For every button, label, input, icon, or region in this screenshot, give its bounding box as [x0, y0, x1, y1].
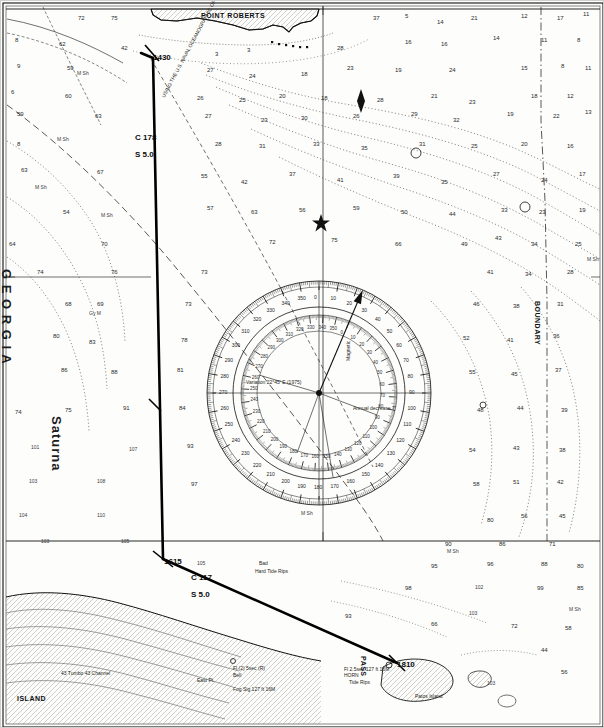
chart-note: HORN [344, 673, 359, 678]
rose-inner-degree-label: 240 [250, 398, 258, 403]
rose-outer-degree-label: 320 [253, 317, 261, 322]
sounding-value: 37 [555, 367, 562, 373]
sounding-value: 43 [513, 445, 520, 451]
rose-inner-degree-label: 260 [252, 376, 260, 381]
rose-outer-degree-label: 250 [225, 422, 233, 427]
sounding-value: 23 [469, 99, 476, 105]
sounding-value: 93 [345, 613, 352, 619]
sounding-value: 99 [537, 585, 544, 591]
sounding-value: 85 [577, 585, 584, 591]
chart-note: Magnetic [346, 341, 351, 361]
feature-label: ISLAND [17, 695, 46, 702]
sounding-value: 68 [65, 301, 72, 307]
rose-inner-degree-label: 0 [340, 331, 343, 336]
sounding-value: 18 [531, 93, 538, 99]
sounding-value: 33 [501, 207, 508, 213]
sounding-value: 24 [249, 73, 256, 79]
sounding-value: 37 [289, 171, 296, 177]
sounding-value: 49 [461, 241, 468, 247]
sounding-value: 37 [373, 15, 380, 21]
sounding-value: 103 [487, 681, 495, 686]
sounding-value: 29 [411, 111, 418, 117]
sounding-value: 95 [431, 563, 438, 569]
sounding-value: 90 [445, 541, 452, 547]
sounding-value: 75 [111, 15, 118, 21]
sounding-value: 17 [579, 171, 586, 177]
sounding-value: 63 [251, 209, 258, 215]
rose-outer-degree-label: 270 [219, 390, 227, 395]
rose-inner-degree-label: 280 [260, 355, 268, 360]
sounding-value: 93 [187, 443, 194, 449]
sounding-value: 97 [191, 481, 198, 487]
sounding-value: 107 [129, 447, 137, 452]
sounding-value: 75 [331, 237, 338, 243]
sounding-value: 48 [477, 407, 484, 413]
sounding-value: 86 [499, 541, 506, 547]
sounding-value: 31 [557, 301, 564, 307]
sounding-value: 39 [393, 173, 400, 179]
sounding-value: 59 [353, 205, 360, 211]
rose-inner-degree-label: 190 [280, 445, 288, 450]
rose-inner-degree-label: 340 [318, 326, 326, 331]
sounding-value: 38 [559, 447, 566, 453]
chart-note: Fog Sig 127 ft 16M [233, 687, 275, 692]
rose-outer-degree-label: 90 [409, 390, 415, 395]
sounding-value: 31 [259, 143, 266, 149]
rose-inner-degree-label: 170 [300, 454, 308, 459]
sounding-value: 83 [89, 339, 96, 345]
rose-outer-degree-label: 210 [267, 472, 275, 477]
sounding-value: 70 [101, 241, 108, 247]
sounding-value: 64 [9, 241, 16, 247]
sounding-value: 59 [67, 65, 74, 71]
sounding-value: 72 [269, 239, 276, 245]
rose-outer-degree-label: 20 [346, 301, 352, 306]
sounding-value: 52 [463, 335, 470, 341]
sounding-value: M Sh [77, 71, 89, 76]
sounding-value: 17 [557, 15, 564, 21]
sounding-value: 55 [201, 173, 208, 179]
sounding-value: 25 [239, 97, 246, 103]
sounding-value: 20 [279, 93, 286, 99]
rose-outer-degree-label: 30 [362, 308, 368, 313]
rose-inner-degree-label: 120 [354, 442, 362, 447]
rose-outer-degree-label: 200 [282, 479, 290, 484]
sounding-value: 15 [521, 65, 528, 71]
sounding-value: 72 [511, 623, 518, 629]
sounding-value: 75 [65, 407, 72, 413]
rose-inner-degree-label: 110 [363, 435, 370, 440]
sounding-value: 56 [521, 513, 528, 519]
sounding-value: 28 [377, 97, 384, 103]
rose-outer-degree-label: 130 [387, 451, 395, 456]
sounding-value: 80 [487, 517, 494, 523]
rose-inner-degree-label: 90 [375, 416, 380, 421]
rose-outer-degree-label: 220 [253, 463, 261, 468]
sounding-value: 103 [41, 539, 49, 544]
sounding-value: 34 [525, 271, 532, 277]
sounding-value: 25 [575, 241, 582, 247]
rose-outer-degree-label: 70 [403, 358, 409, 363]
speed-label: S 5.0 [191, 591, 210, 599]
sounding-value: 57 [207, 205, 214, 211]
feature-label: Saturna [50, 416, 63, 471]
sounding-value: 88 [111, 369, 118, 375]
sounding-value: 8 [561, 63, 564, 69]
sounding-value: 14 [437, 19, 444, 25]
rose-outer-degree-label: 260 [220, 406, 228, 411]
rose-inner-degree-label: 330 [307, 326, 315, 331]
rose-inner-degree-label: 20 [359, 343, 364, 348]
sounding-value: 32 [453, 117, 460, 123]
sounding-value: 8 [17, 141, 20, 147]
sounding-value: 25 [471, 143, 478, 149]
sounding-value: 28 [567, 269, 574, 275]
rose-outer-degree-label: 150 [362, 472, 370, 477]
chart-note: Variation 22°45' E (1975) [246, 380, 301, 385]
rose-inner-degree-label: 180 [290, 450, 298, 455]
sounding-value: 23 [347, 65, 354, 71]
chart-note: Bell [233, 673, 241, 678]
sounding-value: 103 [29, 479, 37, 484]
rose-outer-degree-label: 100 [408, 406, 416, 411]
rose-inner-degree-label: 300 [276, 339, 284, 344]
speed-label: S 5.0 [135, 151, 154, 159]
sounding-value: 11 [583, 11, 589, 17]
sounding-value: 50 [401, 209, 408, 215]
